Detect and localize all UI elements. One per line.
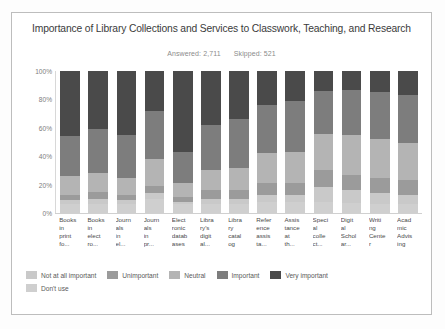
- legend-item[interactable]: Not at all important: [26, 271, 96, 279]
- bar-segment[interactable]: [173, 204, 193, 213]
- bar-segment[interactable]: [201, 204, 221, 213]
- stacked-bar[interactable]: [201, 71, 221, 213]
- bar-segment[interactable]: [229, 71, 249, 119]
- bar-segment[interactable]: [398, 195, 418, 205]
- bar-segment[interactable]: [314, 202, 334, 213]
- bar-segment[interactable]: [117, 71, 137, 135]
- stacked-bar[interactable]: [314, 71, 334, 213]
- bar-segment[interactable]: [342, 175, 362, 191]
- bar-segment[interactable]: [398, 180, 418, 194]
- legend-item[interactable]: Important: [217, 271, 260, 279]
- bar-segment[interactable]: [117, 135, 137, 178]
- bar-segment[interactable]: [314, 134, 334, 171]
- bar-segment[interactable]: [229, 168, 249, 191]
- bar-segment[interactable]: [173, 152, 193, 183]
- bar-segment[interactable]: [342, 71, 362, 89]
- bar-group[interactable]: [314, 71, 334, 213]
- bar-segment[interactable]: [173, 183, 193, 197]
- bar-segment[interactable]: [370, 193, 390, 204]
- bar-segment[interactable]: [285, 202, 305, 213]
- stacked-bar[interactable]: [173, 71, 193, 213]
- bar-group[interactable]: [398, 71, 418, 213]
- legend-item[interactable]: Very important: [270, 271, 328, 279]
- bar-segment[interactable]: [398, 143, 418, 180]
- bar-segment[interactable]: [201, 125, 221, 170]
- bar-group[interactable]: [342, 71, 362, 213]
- bar-segment[interactable]: [88, 204, 108, 213]
- stacked-bar[interactable]: [342, 71, 362, 213]
- bar-segment[interactable]: [398, 95, 418, 143]
- bar-segment[interactable]: [285, 183, 305, 194]
- bar-segment[interactable]: [60, 71, 80, 136]
- bar-segment[interactable]: [117, 204, 137, 213]
- bar-segment[interactable]: [229, 190, 249, 199]
- bar-segment[interactable]: [88, 129, 108, 173]
- legend-item[interactable]: Unimportant: [107, 271, 158, 279]
- bar-group[interactable]: [370, 71, 390, 213]
- bar-segment[interactable]: [201, 190, 221, 199]
- stacked-bar[interactable]: [88, 71, 108, 213]
- stacked-bar[interactable]: [60, 71, 80, 213]
- bar-segment[interactable]: [314, 71, 334, 91]
- bar-group[interactable]: [229, 71, 249, 213]
- stacked-bar[interactable]: [285, 71, 305, 213]
- bar-segment[interactable]: [285, 195, 305, 202]
- bar-segment[interactable]: [314, 91, 334, 134]
- bar-segment[interactable]: [145, 199, 165, 213]
- bar-segment[interactable]: [370, 92, 390, 139]
- bar-segment[interactable]: [370, 178, 390, 194]
- bar-segment[interactable]: [370, 71, 390, 92]
- stacked-bar[interactable]: [229, 71, 249, 213]
- bar-segment[interactable]: [342, 90, 362, 135]
- bar-segment[interactable]: [145, 159, 165, 186]
- bar-segment[interactable]: [257, 183, 277, 194]
- bar-segment[interactable]: [88, 192, 108, 199]
- stacked-bar[interactable]: [398, 71, 418, 213]
- bar-segment[interactable]: [145, 111, 165, 159]
- bar-group[interactable]: [257, 71, 277, 213]
- bar-segment[interactable]: [314, 187, 334, 201]
- bar-segment[interactable]: [145, 186, 165, 193]
- bar-segment[interactable]: [60, 136, 80, 176]
- bar-segment[interactable]: [229, 204, 249, 213]
- stacked-bar[interactable]: [370, 71, 390, 213]
- bar-segment[interactable]: [398, 71, 418, 95]
- bar-group[interactable]: [117, 71, 137, 213]
- bar-segment[interactable]: [285, 152, 305, 183]
- bar-group[interactable]: [88, 71, 108, 213]
- bar-segment[interactable]: [88, 71, 108, 129]
- bar-segment[interactable]: [117, 178, 137, 195]
- bar-segment[interactable]: [60, 204, 80, 213]
- stacked-bar[interactable]: [117, 71, 137, 213]
- bar-segment[interactable]: [173, 71, 193, 152]
- bar-segment[interactable]: [257, 202, 277, 213]
- bar-group[interactable]: [60, 71, 80, 213]
- legend-item[interactable]: Neutral: [169, 271, 205, 279]
- bar-segment[interactable]: [370, 204, 390, 213]
- bar-segment[interactable]: [314, 170, 334, 187]
- bar-segment[interactable]: [201, 71, 221, 125]
- bar-group[interactable]: [173, 71, 193, 213]
- bar-segment[interactable]: [370, 139, 390, 177]
- stacked-bar[interactable]: [145, 71, 165, 213]
- bar-segment[interactable]: [342, 190, 362, 203]
- bar-group[interactable]: [201, 71, 221, 213]
- bar-segment[interactable]: [257, 71, 277, 105]
- bar-segment[interactable]: [342, 203, 362, 213]
- bar-segment[interactable]: [398, 204, 418, 213]
- bar-segment[interactable]: [201, 170, 221, 190]
- legend-item[interactable]: Don't use: [26, 284, 69, 292]
- bar-group[interactable]: [145, 71, 165, 213]
- bar-segment[interactable]: [257, 195, 277, 202]
- bar-segment[interactable]: [257, 105, 277, 153]
- stacked-bar[interactable]: [257, 71, 277, 213]
- bar-group[interactable]: [285, 71, 305, 213]
- bar-segment[interactable]: [60, 176, 80, 194]
- bar-segment[interactable]: [342, 135, 362, 175]
- bar-segment[interactable]: [285, 71, 305, 101]
- bar-segment[interactable]: [229, 119, 249, 167]
- bar-segment[interactable]: [285, 101, 305, 152]
- bar-segment[interactable]: [145, 71, 165, 111]
- bar-segment[interactable]: [257, 153, 277, 183]
- bar-segment[interactable]: [88, 173, 108, 191]
